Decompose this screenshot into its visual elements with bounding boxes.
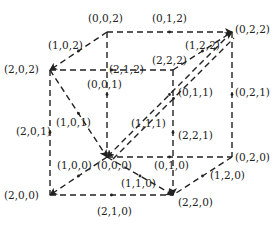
vertex-label: (0,2,2) <box>235 24 270 35</box>
edge-label: (0,0,1) <box>87 79 122 90</box>
vertex-label: (2,0,2) <box>4 64 39 75</box>
edge-label: (1,1,1) <box>131 118 166 129</box>
vertex-label: (2,0,0) <box>4 190 39 201</box>
midpoint-dot <box>110 194 113 197</box>
midpoint-ticks <box>49 31 234 197</box>
midpoint-dot <box>106 93 109 96</box>
midpoint-dot <box>168 93 171 96</box>
edge-label: (0,2,1) <box>235 87 270 98</box>
edge-label: (1,1,0) <box>121 178 156 189</box>
edge-label: (1,2,0) <box>210 170 245 181</box>
edge-label: (2,1,0) <box>97 206 132 217</box>
midpoint-dot <box>201 175 204 178</box>
edge-label: (0,1,1) <box>178 87 213 98</box>
edge-label: (2,1,2) <box>109 64 144 75</box>
midpoint-dot <box>231 93 234 96</box>
midpoint-dot <box>77 175 80 178</box>
vertex-label: (2,2,0) <box>178 197 213 208</box>
vertex-label: (0,2,0) <box>235 152 270 163</box>
edge-label: (2,0,1) <box>16 126 51 137</box>
vertex-label: (0,0,0) <box>97 160 132 171</box>
edge-label: (0,1,0) <box>154 160 189 171</box>
midpoint-dot <box>168 31 171 34</box>
vertex-label: (2,2,2) <box>152 55 187 66</box>
vertex-label: (0,0,2) <box>88 13 123 24</box>
midpoint-dot <box>172 131 175 134</box>
edge-label: (0,1,2) <box>152 13 187 24</box>
edge-label: (1,2,2) <box>185 40 220 51</box>
cube-diagram: (0,0,2)(0,2,2)(2,0,2)(2,2,2)(0,0,0)(0,2,… <box>0 0 279 226</box>
midpoint-dot <box>77 112 80 115</box>
edge-label: (1,0,2) <box>48 40 83 51</box>
edge-label: (1,0,0) <box>57 160 92 171</box>
edge-label: (1,0,1) <box>56 117 91 128</box>
edge-label: (2,2,1) <box>178 130 213 141</box>
midpoint-dot <box>168 156 171 159</box>
midpoint-dot <box>172 97 175 100</box>
